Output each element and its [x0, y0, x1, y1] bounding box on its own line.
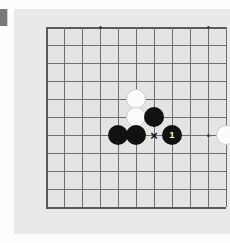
- grid-line-horizontal: [46, 207, 226, 209]
- stone-black[interactable]: [108, 125, 128, 145]
- stone-white[interactable]: [216, 125, 230, 145]
- stone-black[interactable]: 1: [162, 125, 182, 145]
- board-panel: ×1: [14, 9, 230, 234]
- stone-move-number: 1: [162, 125, 182, 145]
- grid-line-vertical: [190, 27, 191, 207]
- grid-line-vertical: [226, 27, 227, 207]
- grid-line-vertical: [118, 27, 119, 207]
- grid-line-vertical: [172, 27, 173, 207]
- star-point: [207, 134, 210, 137]
- left-edge-marker: [0, 9, 8, 26]
- grid-line-vertical: [100, 27, 101, 207]
- stone-black[interactable]: [144, 107, 164, 127]
- stone-white[interactable]: [126, 107, 146, 127]
- star-point: [99, 26, 102, 29]
- star-point: [207, 26, 210, 29]
- x-mark: ×: [148, 129, 161, 142]
- grid-line-vertical: [64, 27, 65, 207]
- stone-black[interactable]: [126, 125, 146, 145]
- grid-line-vertical: [82, 27, 83, 207]
- go-board[interactable]: ×1: [46, 27, 226, 207]
- grid-line-vertical: [208, 27, 209, 207]
- stone-white[interactable]: [126, 89, 146, 109]
- grid-line-vertical: [46, 27, 48, 207]
